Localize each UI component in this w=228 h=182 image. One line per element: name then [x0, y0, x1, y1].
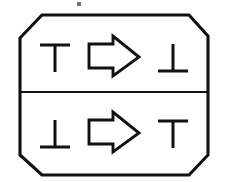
top-row-tee-symbol	[40, 45, 70, 72]
diagram-canvas: Octagonal two-row transformation diagram…	[0, 0, 228, 182]
top-row-right-arrow-icon	[89, 36, 139, 76]
bottom-row	[40, 112, 188, 152]
bottom-row-right-arrow-icon	[89, 112, 139, 152]
top-row-up-tack-symbol	[158, 44, 188, 71]
scan-speck-icon	[77, 2, 81, 6]
bottom-row-up-tack-symbol	[40, 120, 70, 147]
octagon-diagram	[0, 0, 228, 182]
bottom-row-tee-symbol	[158, 121, 188, 148]
top-row	[40, 36, 188, 76]
